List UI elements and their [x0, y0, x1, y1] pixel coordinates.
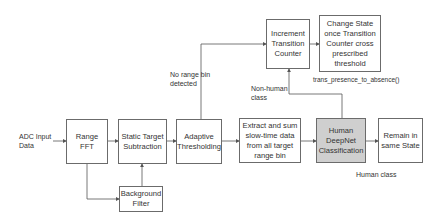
human-class-label: Human class — [356, 170, 396, 179]
function-name-label: trans_presence_to_absence() — [313, 75, 399, 84]
background-filter-block: Background Filter — [119, 186, 163, 212]
adaptive-thresholding-block: Adaptive Thresholding — [176, 119, 222, 164]
change-state-block: Change State once Transition Counter cro… — [319, 15, 381, 72]
extract-sum-block: Extract and sum slow-time data from all … — [239, 118, 301, 163]
increment-counter-block: Increment Transition Counter — [266, 19, 310, 69]
adc-input-label: ADC Input Data — [19, 132, 51, 150]
static-target-subtraction-block: Static Target Subtraction — [118, 119, 167, 164]
non-human-label: Non-human class — [251, 84, 291, 102]
remain-state-block: Remain in same State — [378, 118, 423, 163]
range-fft-block: Range FFT — [66, 119, 108, 164]
human-deepnet-block: Human DeepNet Classification — [316, 118, 366, 163]
no-range-bin-label: No range bin detected — [170, 70, 215, 88]
